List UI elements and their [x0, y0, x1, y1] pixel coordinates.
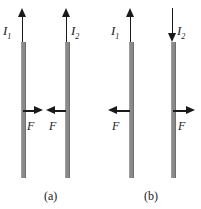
label-force-left-b: F [112, 120, 119, 132]
label-subscript: 1 [115, 32, 119, 41]
current-arrow-i1-a [17, 8, 28, 42]
panel-b: I1 I2 F F (b) [100, 0, 201, 209]
arrow-shaft [22, 14, 23, 42]
caption-panel-b: (b) [144, 190, 158, 202]
label-current-i2-a: I2 [71, 24, 79, 41]
arrowhead-right-icon [186, 106, 195, 114]
label-current-i1-b: I1 [111, 24, 119, 41]
label-force-right-a: F [49, 120, 56, 132]
arrowhead-right-icon [34, 106, 43, 114]
caption-panel-a: (a) [44, 190, 57, 202]
label-current-i2-b: I2 [177, 24, 185, 41]
label-force-right-b: F [178, 120, 185, 132]
arrow-shaft [130, 14, 131, 42]
label-force-left-a: F [27, 120, 34, 132]
arrow-shaft [172, 8, 173, 36]
physics-figure: I1 I2 F F (a) I1 I2 [0, 0, 201, 209]
label-subscript: 1 [7, 32, 11, 41]
label-current-i1-a: I1 [3, 24, 11, 41]
label-subscript: 2 [75, 32, 79, 41]
label-subscript: 2 [181, 32, 185, 41]
arrow-shaft [52, 110, 66, 112]
current-arrow-i1-b [125, 8, 136, 42]
arrow-shaft [66, 14, 67, 42]
arrow-shaft [114, 110, 130, 112]
force-arrow-left-a [23, 106, 43, 115]
panel-a: I1 I2 F F (a) [0, 0, 101, 209]
force-arrow-left-b [108, 106, 130, 115]
force-arrow-right-a [46, 106, 66, 115]
arrowhead-down-icon [168, 33, 176, 42]
force-arrow-right-b [173, 106, 195, 115]
